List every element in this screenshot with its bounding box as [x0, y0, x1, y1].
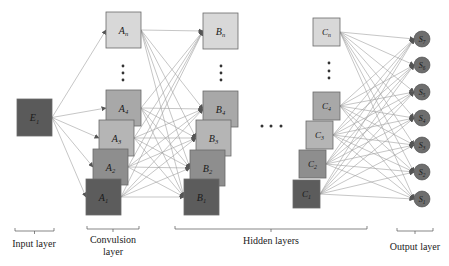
edge [121, 168, 190, 197]
node-c1: C1 [293, 180, 320, 208]
vertical-ellipsis-b [220, 65, 223, 82]
node-an: An [106, 12, 141, 48]
edge [320, 194, 414, 199]
edge [340, 106, 414, 199]
node-bn: Bn [203, 13, 238, 49]
vertical-ellipsis-a [122, 65, 125, 82]
output-layer-caption: Output layer [390, 241, 441, 252]
bracket-output [397, 228, 433, 234]
edge [320, 172, 414, 194]
edge [340, 32, 414, 39]
edge [326, 145, 414, 164]
node-s5: S5 [414, 84, 430, 100]
convolution-layer-caption-line2: layer [103, 246, 124, 257]
hidden-layers-caption: Hidden layers [243, 235, 299, 246]
cnn-diagram: E1AnA4A3A2A1BnB4B3B2B1CnC4C3C2C1S7S6S5S4… [0, 0, 449, 266]
edge [52, 118, 99, 139]
edge [134, 109, 203, 138]
bracket-hidden [175, 226, 367, 232]
node-s2: S2 [414, 164, 430, 180]
horizontal-ellipsis-hidden [261, 125, 283, 128]
edge [141, 108, 203, 109]
node-cn: Cn [313, 18, 340, 46]
node-e1: E1 [17, 99, 52, 136]
input-layer-caption: Input layer [12, 238, 56, 249]
edge [52, 108, 106, 118]
edge [134, 31, 203, 138]
edge [333, 92, 414, 135]
node-s7: S7 [414, 31, 430, 47]
layer-brackets [15, 226, 433, 234]
vertical-ellipsis-c [328, 62, 331, 80]
bracket-convolution [87, 226, 139, 232]
node-s6: S6 [414, 57, 430, 73]
node-b1: B1 [184, 179, 219, 215]
edge [52, 118, 86, 198]
node-s3: S3 [414, 137, 430, 153]
edge [141, 108, 196, 138]
node-s1: S1 [414, 191, 430, 207]
edge [340, 32, 414, 118]
node-c4: C4 [313, 92, 340, 120]
node-c3: C3 [306, 121, 333, 149]
network-nodes: E1AnA4A3A2A1BnB4B3B2B1CnC4C3C2C1S7S6S5S4… [17, 12, 430, 215]
edge [141, 31, 203, 108]
node-c2: C2 [299, 150, 326, 178]
node-a1: A1 [86, 179, 121, 215]
bracket-input [15, 228, 54, 234]
convolution-layer-caption-line1: Convulsion [90, 234, 136, 245]
edge [52, 30, 106, 118]
node-s4: S4 [414, 110, 430, 126]
edge [52, 118, 93, 168]
edge [141, 30, 203, 31]
